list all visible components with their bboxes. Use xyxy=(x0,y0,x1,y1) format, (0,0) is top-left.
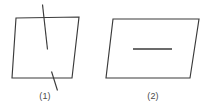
panel-1-group: (1) xyxy=(12,5,79,102)
panel-2-caption: (2) xyxy=(147,91,159,101)
panel-1-caption: (1) xyxy=(39,91,51,101)
figure-canvas: (1) (2) xyxy=(0,0,209,108)
geometry-figure-svg: (1) (2) xyxy=(0,0,209,108)
panel-2-group: (2) xyxy=(106,19,199,101)
top-crossing-slanted-line xyxy=(43,5,48,50)
bottom-crossing-slanted-line xyxy=(52,72,58,91)
parallelogram-1 xyxy=(12,17,79,78)
